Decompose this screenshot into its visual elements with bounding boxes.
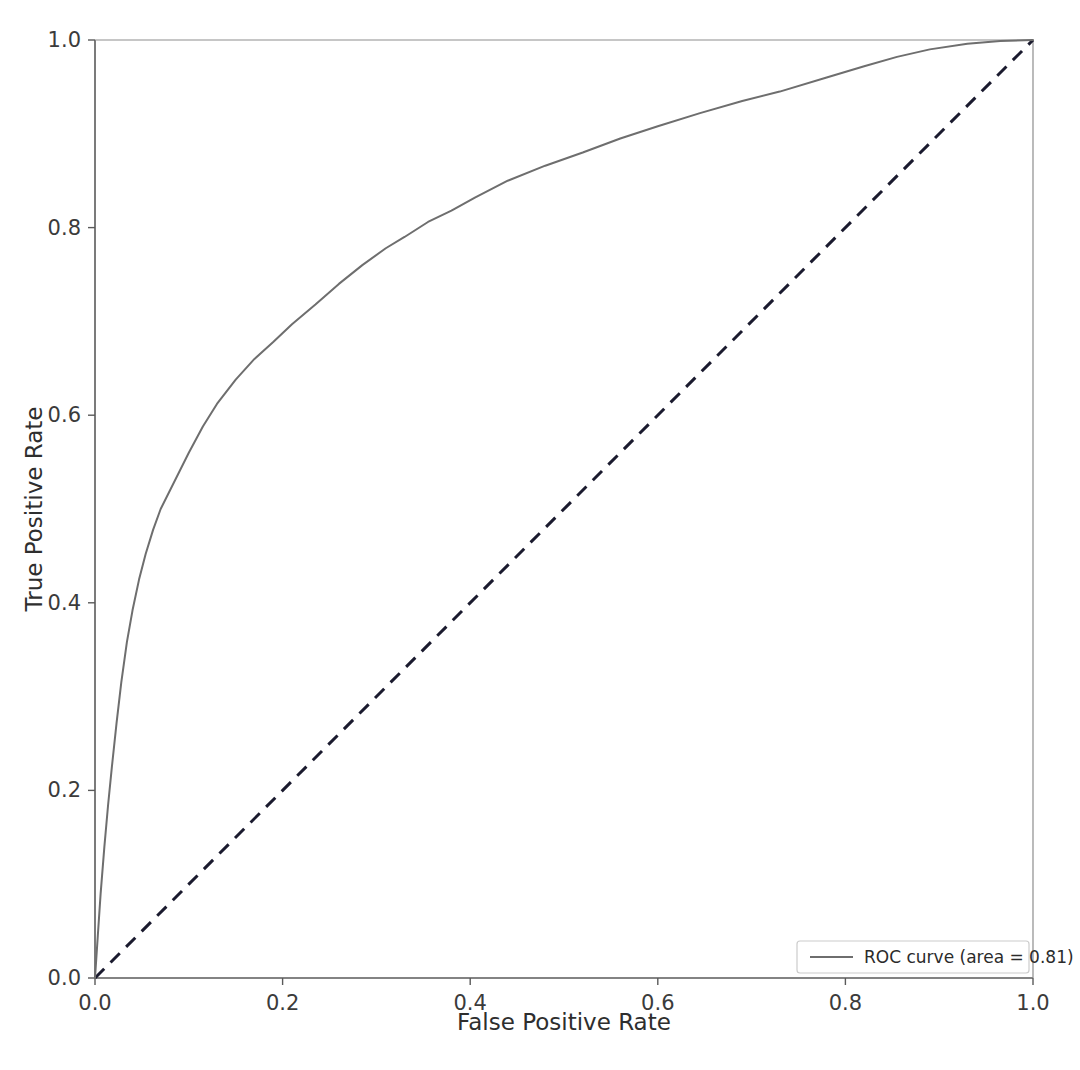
y-tick-label: 1.0 (48, 28, 81, 52)
y-tick-label: 0.8 (48, 216, 81, 240)
roc-curve-figure: 0.00.20.40.60.81.0 0.00.20.40.60.81.0 Fa… (0, 0, 1080, 1070)
y-axis-title: True Positive Rate (21, 407, 47, 613)
legend-label-roc-curve: ROC curve (area = 0.81) (864, 947, 1074, 967)
y-tick-label: 0.2 (48, 778, 81, 802)
x-axis-title: False Positive Rate (457, 1009, 671, 1035)
roc-plot-canvas: 0.00.20.40.60.81.0 0.00.20.40.60.81.0 Fa… (0, 0, 1080, 1070)
x-tick-label: 1.0 (1016, 991, 1049, 1015)
y-tick-label: 0.0 (48, 966, 81, 990)
x-tick-label: 0.8 (829, 991, 862, 1015)
x-tick-label: 0.2 (266, 991, 299, 1015)
y-tick-label: 0.4 (48, 591, 81, 615)
y-tick-label: 0.6 (48, 403, 81, 427)
x-tick-label: 0.0 (78, 991, 111, 1015)
